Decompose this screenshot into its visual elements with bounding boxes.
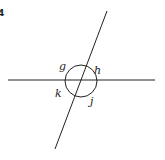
- angle-label-g: g: [59, 60, 66, 73]
- angle-label-j: j: [87, 95, 94, 108]
- intersecting-lines-diagram: 4 g h k j: [0, 0, 165, 160]
- figure-number: 4: [0, 8, 4, 18]
- angle-label-h: h: [94, 64, 101, 77]
- angle-label-k: k: [55, 87, 62, 100]
